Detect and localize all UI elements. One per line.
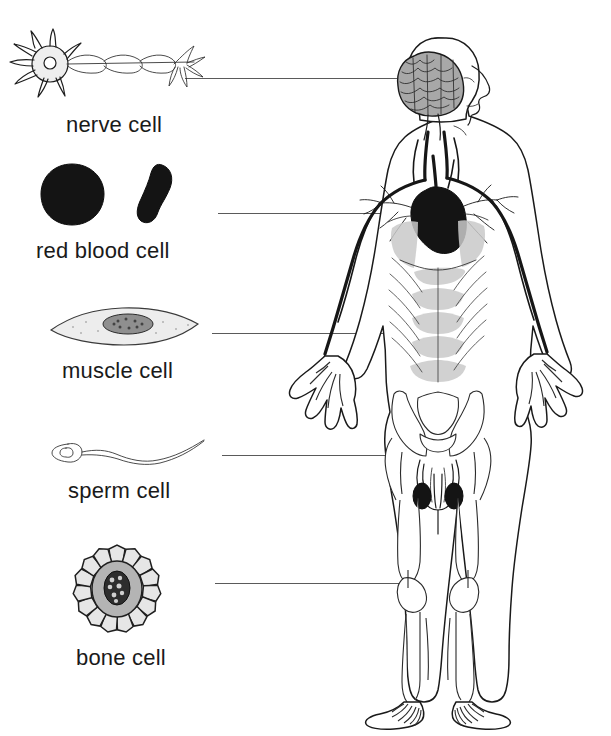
- myocyte-icon: [48, 300, 208, 352]
- cell-label-sperm-cell: sperm cell: [68, 478, 170, 504]
- spermatozoon-icon: [30, 432, 220, 476]
- foot-bones: [366, 702, 511, 729]
- erythrocyte-icon: [38, 162, 208, 230]
- neuron-icon: [6, 28, 206, 100]
- osteocyte-icon: [62, 545, 172, 633]
- human-body-anatomy-figure: [268, 22, 608, 722]
- cell-label-nerve-cell: nerve cell: [66, 112, 162, 138]
- cell-label-red-blood-cell: red blood cell: [36, 238, 170, 264]
- cell-label-bone-cell: bone cell: [76, 645, 166, 671]
- cell-label-muscle-cell: muscle cell: [62, 358, 173, 384]
- diagram-canvas: nerve cell red blood cell mu: [0, 0, 611, 736]
